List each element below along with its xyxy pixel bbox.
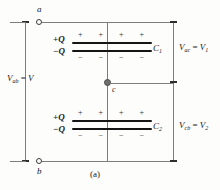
capacitor-1-positive-charge-label: +Q: [53, 35, 65, 44]
terminal-a-circle[interactable]: [36, 19, 42, 25]
right-dimension-line-lower: [173, 83, 174, 161]
capacitor-2-subscript: 2: [159, 126, 162, 132]
capacitors-in-series-figure: a b c + + + + − − − − +Q −Q C1 + + + + −…: [0, 0, 220, 190]
v-ac-arrow-bottom-tick: [170, 81, 177, 83]
left-stub-top: [10, 22, 26, 23]
v-ac-symbol: V: [179, 42, 185, 52]
v-ab-subscript: ab: [13, 78, 19, 84]
v-cb-value-subscript: 2: [205, 125, 208, 131]
v-cb-equals: =: [192, 120, 197, 130]
v-cb-arrow-bottom-tick: [170, 160, 177, 162]
v-ac-value-subscript: 1: [205, 47, 208, 53]
capacitor-1-subscript: 1: [159, 48, 162, 54]
left-vertical-wire: [25, 22, 26, 162]
capacitor-2-top-plate: [72, 120, 152, 122]
capacitor-2-minus-signs: − − − −: [78, 131, 151, 140]
node-c-label: c: [112, 86, 116, 94]
capacitor-1-minus-signs: − − − −: [78, 53, 151, 62]
capacitor-2-positive-charge-label: +Q: [53, 113, 65, 122]
right-dimension-line-upper: [173, 22, 174, 83]
v-ac-equals: =: [192, 42, 197, 52]
v-cb-subscript: cb: [185, 125, 191, 131]
terminal-b-circle[interactable]: [36, 158, 42, 164]
capacitor-2-plus-signs: + + + +: [78, 108, 151, 117]
terminal-b-label: b: [37, 167, 42, 176]
center-vertical-wire-lower: [107, 84, 108, 162]
capacitor-1-top-plate: [72, 42, 152, 44]
v-ab-equals: =: [21, 73, 26, 83]
capacitor-1-negative-charge-label: −Q: [53, 47, 65, 56]
middle-horizontal-wire: [110, 83, 173, 84]
v-cb-label: Vcb = V2: [179, 121, 208, 130]
v-ac-arrow-top-tick: [170, 21, 177, 23]
capacitor-1-bottom-plate: [72, 50, 152, 52]
capacitor-2-bottom-plate: [72, 128, 152, 130]
v-ab-value: V: [28, 73, 34, 83]
figure-caption: (a): [80, 169, 110, 179]
v-ac-label: Vac = V1: [179, 43, 208, 52]
v-ab-label: Vab = V: [7, 74, 34, 83]
capacitor-1-plus-signs: + + + +: [78, 30, 151, 39]
capacitor-1-name-label: C1: [153, 43, 162, 53]
v-ab-symbol: V: [7, 73, 13, 83]
v-cb-symbol: V: [179, 120, 185, 130]
v-ac-subscript: ac: [185, 47, 191, 53]
capacitor-2-negative-charge-label: −Q: [53, 125, 65, 134]
left-stub-bottom: [10, 161, 26, 162]
capacitor-2-name-label: C2: [153, 121, 162, 131]
terminal-a-label: a: [37, 5, 42, 14]
